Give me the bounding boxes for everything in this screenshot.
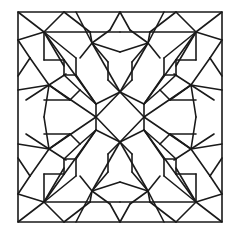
pattern-line (120, 12, 130, 30)
pattern-line (191, 117, 196, 149)
pattern-line (196, 202, 222, 222)
pattern-line (210, 158, 222, 176)
pattern-line (49, 85, 96, 117)
pattern-line (148, 176, 160, 191)
pattern-line (18, 202, 44, 222)
pattern-line (30, 149, 49, 176)
pattern-line (191, 85, 196, 117)
pattern-line (160, 90, 170, 100)
pattern-line (49, 117, 96, 149)
pattern-line (49, 74, 66, 85)
pattern-line (174, 74, 191, 85)
pattern-line (44, 12, 64, 32)
pattern-line (44, 85, 49, 117)
pattern-line (18, 58, 30, 76)
pattern-line (44, 117, 49, 149)
pattern-line (18, 32, 44, 40)
pattern-line (96, 130, 120, 142)
pattern-line (196, 12, 222, 32)
pattern-line (18, 194, 44, 202)
pattern-line (148, 12, 164, 43)
pattern-line (148, 191, 164, 222)
pattern-line (148, 43, 160, 58)
pattern-line (174, 149, 191, 160)
pattern-line (30, 58, 49, 85)
pattern-line (160, 134, 170, 144)
pattern-line (144, 85, 191, 117)
pattern-line (18, 12, 44, 32)
outer-frame (18, 12, 222, 222)
pattern-line (210, 58, 222, 76)
pattern-line (120, 92, 144, 104)
pattern-line (76, 12, 92, 43)
pattern-line (80, 176, 92, 191)
geometric-pattern (0, 0, 230, 231)
pattern-line (76, 191, 92, 222)
pattern-line (70, 90, 80, 100)
pattern-line (120, 130, 144, 142)
pattern-line (120, 204, 130, 222)
central-diamond (96, 92, 144, 142)
pattern-line (80, 43, 92, 58)
pattern-line (196, 32, 222, 40)
pattern-line (191, 149, 210, 176)
pattern-line (176, 12, 196, 32)
pattern-line (191, 58, 210, 85)
pattern-line (176, 202, 196, 222)
pattern-line (210, 40, 222, 58)
pattern-line (110, 12, 120, 30)
pattern-line (49, 149, 66, 160)
pattern-line (18, 176, 30, 194)
pattern-line (196, 194, 222, 202)
pattern-line (18, 158, 30, 176)
pattern-line (144, 117, 191, 149)
pattern-line (96, 92, 120, 104)
pattern-line (110, 204, 120, 222)
pattern-line (18, 40, 30, 58)
pattern-lines (18, 12, 222, 222)
pattern-line (70, 134, 80, 144)
pattern-line (44, 202, 64, 222)
pattern-line (210, 176, 222, 194)
